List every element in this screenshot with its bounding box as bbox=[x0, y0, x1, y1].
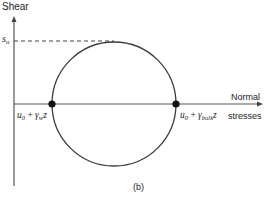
su-sub: u bbox=[6, 38, 9, 45]
x-axis-label-line1: Normal bbox=[231, 92, 260, 102]
label-part: + bbox=[188, 110, 198, 120]
su-label: su bbox=[2, 34, 9, 47]
x-axis-label-line2: stresses bbox=[228, 111, 262, 121]
label-part: bulk bbox=[202, 114, 213, 121]
y-axis-arrow-icon bbox=[12, 16, 17, 22]
left-stress-point bbox=[48, 100, 55, 107]
y-axis-label: Shear bbox=[2, 2, 29, 12]
panel-label: (b) bbox=[133, 182, 144, 192]
x-axis-arrow-icon bbox=[257, 102, 263, 107]
label-part: z bbox=[43, 110, 47, 120]
left-point-label: u0 + γwz bbox=[17, 110, 47, 123]
label-part: + bbox=[25, 110, 35, 120]
label-part: z bbox=[213, 110, 217, 120]
right-point-label: u0 + γbulkz bbox=[180, 110, 217, 123]
right-stress-point bbox=[172, 100, 179, 107]
